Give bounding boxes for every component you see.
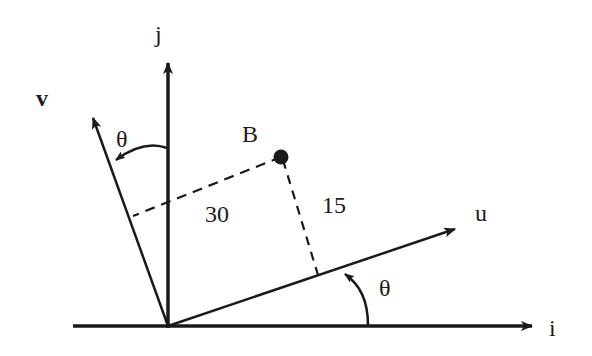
v-axis <box>93 118 168 326</box>
angle-arc-u <box>345 274 368 326</box>
u-axis <box>168 229 455 326</box>
coordinate-30-label: 30 <box>205 201 229 227</box>
projection-to-u <box>283 160 318 275</box>
u-label: u <box>475 200 487 226</box>
i-label: i <box>549 315 556 341</box>
coordinate-15-label: 15 <box>322 192 346 218</box>
point-b-label: B <box>242 121 258 147</box>
theta-label-u: θ <box>379 275 391 301</box>
j-label: j <box>154 21 162 47</box>
theta-label-v: θ <box>116 126 128 152</box>
point-b <box>274 150 289 165</box>
rotated-frame-diagram: j i u v B 30 15 θ θ <box>0 0 592 356</box>
v-label: v <box>36 85 48 111</box>
